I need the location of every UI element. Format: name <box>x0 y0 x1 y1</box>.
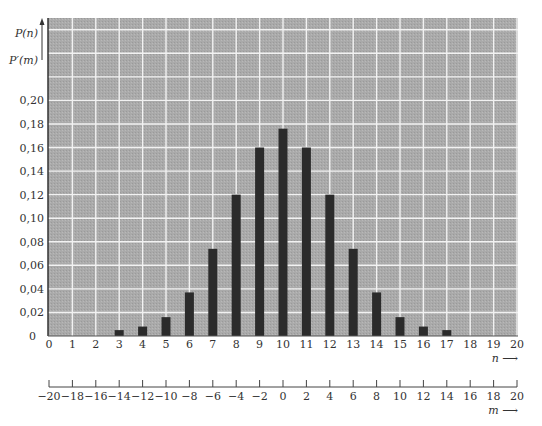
y-tick-label: 0,12 <box>20 189 45 202</box>
y-tick-label: 0,20 <box>20 94 45 107</box>
m-tick-label: 4 <box>326 390 333 403</box>
m-tick-label: 16 <box>463 390 477 403</box>
m-tick-label: −18 <box>61 390 84 403</box>
bar-n-16 <box>419 327 428 336</box>
m-tick-label: −10 <box>154 390 177 403</box>
bar-n-9 <box>255 148 264 336</box>
m-tick-label: 8 <box>373 390 380 403</box>
bar-n-5 <box>162 317 171 336</box>
x-tick-label: 19 <box>487 338 501 351</box>
x-tick-label: 18 <box>463 338 477 351</box>
bar-n-12 <box>325 195 334 336</box>
x-tick-label: 15 <box>393 338 407 351</box>
binomial-bar-chart: 00,020,040,060,080,100,120,140,160,180,2… <box>0 0 542 426</box>
m-tick-label: 0 <box>280 390 287 403</box>
arrowhead-up-icon <box>40 18 45 25</box>
m-tick-label: −8 <box>181 390 197 403</box>
x-tick-label: 0 <box>46 338 53 351</box>
x-tick-label: 9 <box>256 338 263 351</box>
y-tick-label: 0,02 <box>20 306 45 319</box>
x-tick-label: 6 <box>186 338 193 351</box>
y-tick-label: 0,14 <box>20 165 45 178</box>
y-tick-label: 0,18 <box>20 118 45 131</box>
m-tick-label: 2 <box>303 390 310 403</box>
x-tick-label: 7 <box>209 338 216 351</box>
x-tick-label: 10 <box>276 338 290 351</box>
bar-n-15 <box>396 317 405 336</box>
x-tick-label: 1 <box>69 338 76 351</box>
x-label-primary: n ⟶ <box>492 352 519 365</box>
y-tick-label: 0,08 <box>20 236 45 249</box>
m-tick-label: 20 <box>510 390 524 403</box>
m-tick-label: 12 <box>416 390 430 403</box>
bar-n-14 <box>372 292 381 336</box>
m-tick-label: −14 <box>108 390 131 403</box>
x-tick-label: 16 <box>416 338 430 351</box>
y-label-secondary: P′(m) <box>8 54 38 67</box>
x-tick-labels: 01234567891011121314151617181920 <box>46 338 525 351</box>
m-tick-label: −12 <box>131 390 154 403</box>
x-tick-label: 3 <box>116 338 123 351</box>
m-tick-label: −16 <box>84 390 107 403</box>
x-label-secondary: m ⟶ <box>488 404 518 417</box>
x-tick-label: 17 <box>440 338 454 351</box>
m-tick-label: −4 <box>228 390 244 403</box>
x-tick-label: 5 <box>163 338 170 351</box>
m-tick-label: 10 <box>393 390 407 403</box>
bar-n-10 <box>279 129 288 336</box>
y-label-primary: P(n) <box>14 27 38 40</box>
y-tick-label: 0,16 <box>20 142 45 155</box>
m-tick-label: −2 <box>251 390 267 403</box>
x-tick-label: 12 <box>323 338 337 351</box>
bar-n-6 <box>185 292 194 336</box>
m-tick-label: −6 <box>205 390 221 403</box>
x-tick-label: 8 <box>233 338 240 351</box>
bar-n-13 <box>349 249 358 336</box>
y-tick-label: 0,10 <box>20 212 45 225</box>
x-tick-label: 4 <box>139 338 146 351</box>
m-tick-label: 6 <box>350 390 357 403</box>
bar-n-11 <box>302 148 311 336</box>
m-tick-label: 18 <box>487 390 501 403</box>
m-tick-label: 14 <box>440 390 454 403</box>
y-tick-label: 0,06 <box>20 259 45 272</box>
x-tick-label: 2 <box>92 338 99 351</box>
m-axis-ticks: −20−18−16−14−12−10−8−6−4−202468101214161… <box>37 380 524 403</box>
x-tick-label: 20 <box>510 338 524 351</box>
y-tick-labels: 00,020,040,060,080,100,120,140,160,180,2… <box>20 94 45 343</box>
x-tick-label: 13 <box>346 338 360 351</box>
bar-n-4 <box>138 327 147 336</box>
x-tick-label: 11 <box>299 338 313 351</box>
m-tick-label: −20 <box>37 390 60 403</box>
x-tick-label: 14 <box>370 338 384 351</box>
bar-n-3 <box>115 330 124 336</box>
bar-n-8 <box>232 195 241 336</box>
y-tick-label: 0 <box>29 330 36 343</box>
y-tick-label: 0,04 <box>20 283 45 296</box>
bar-n-7 <box>208 249 217 336</box>
bar-n-17 <box>442 330 451 336</box>
